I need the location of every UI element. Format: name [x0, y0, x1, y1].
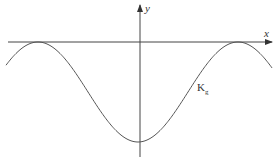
diagram: y x Kg [0, 0, 275, 157]
y-axis-label: y [145, 2, 150, 14]
kg-curve [6, 42, 272, 142]
x-axis-label: x [264, 27, 269, 39]
curve-label-main: K [197, 81, 205, 93]
graph-canvas [0, 0, 275, 157]
curve-label-sub: g [205, 88, 209, 96]
curve-label: Kg [197, 81, 208, 96]
